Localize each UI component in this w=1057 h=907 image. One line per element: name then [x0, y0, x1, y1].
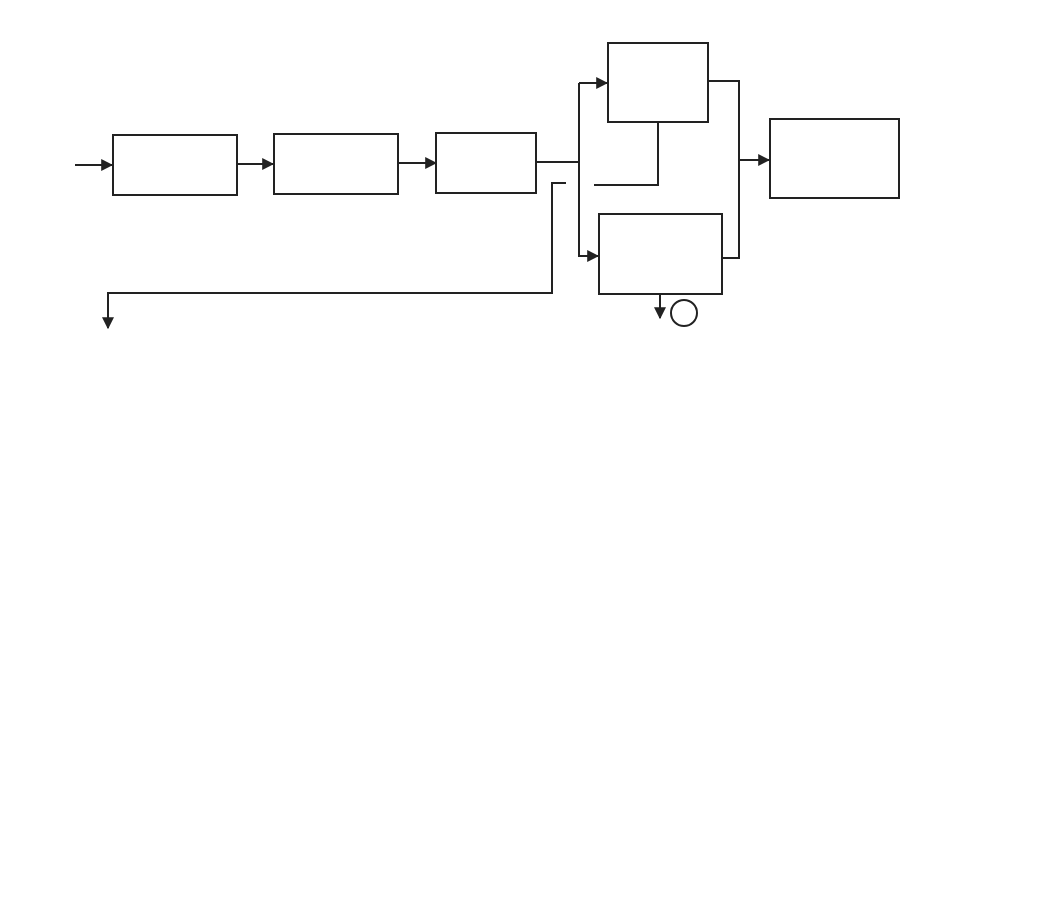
- block-4-0[interactable]: [608, 43, 708, 122]
- functional-flow-diagram: [0, 0, 1057, 907]
- block-6-0[interactable]: [770, 119, 899, 198]
- block-5-0[interactable]: [599, 214, 722, 294]
- block-1-0[interactable]: [113, 135, 237, 195]
- block-3-0[interactable]: [436, 133, 536, 193]
- block-2-0[interactable]: [274, 134, 398, 194]
- expansion-line-4-0: [594, 122, 658, 185]
- expansion-line-4-0-down: [108, 183, 566, 318]
- offpage-connector-a[interactable]: [671, 300, 697, 326]
